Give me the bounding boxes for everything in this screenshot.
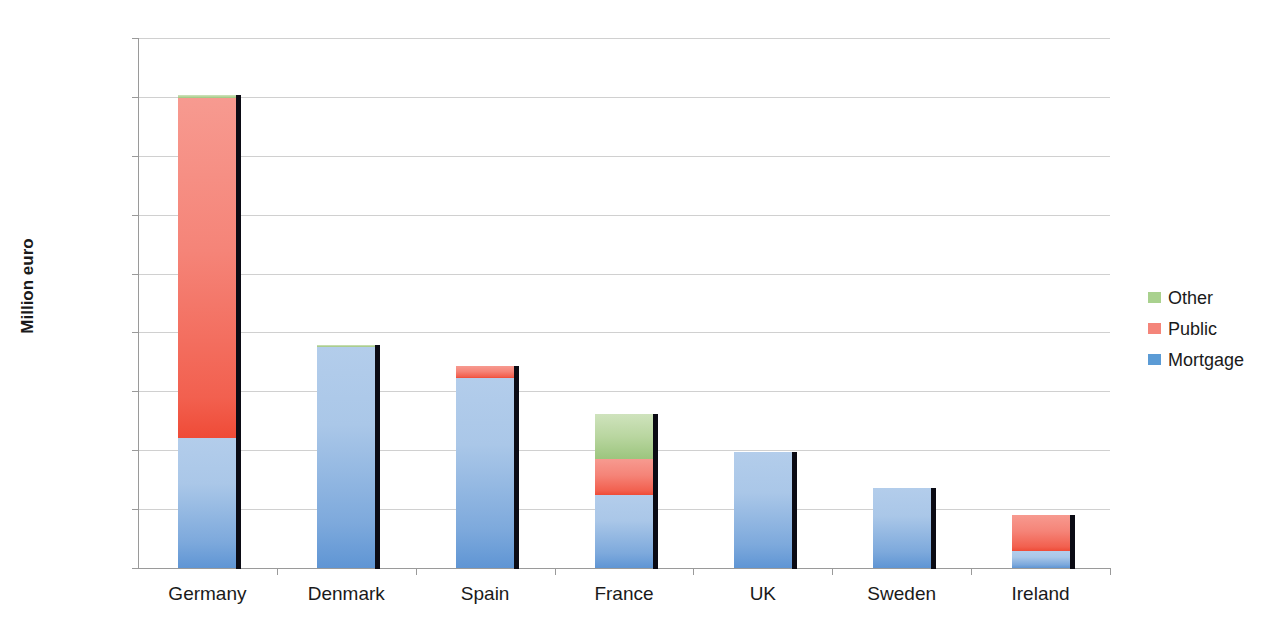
legend-label: Other xyxy=(1168,289,1213,307)
y-tick-mark xyxy=(132,274,139,275)
bar-sweden[interactable] xyxy=(873,488,931,568)
x-tick-mark xyxy=(277,568,278,575)
bar-shadow xyxy=(1070,515,1075,569)
y-tick-mark xyxy=(132,450,139,451)
gridline xyxy=(138,38,1110,39)
bar-spain[interactable] xyxy=(456,366,514,568)
y-tick-mark xyxy=(132,97,139,98)
x-tick-mark xyxy=(693,568,694,575)
bar-segment-public xyxy=(178,98,236,438)
bar-shadow xyxy=(375,345,380,569)
bar-segment-mortgage xyxy=(456,378,514,568)
bar-uk[interactable] xyxy=(734,452,792,568)
y-axis-line xyxy=(138,38,139,568)
legend-swatch-public xyxy=(1148,323,1161,334)
bar-segment-public xyxy=(595,459,653,495)
bar-germany[interactable] xyxy=(178,95,236,568)
legend-item-mortgage[interactable]: Mortgage xyxy=(1148,344,1278,375)
bar-segment-mortgage xyxy=(178,438,236,568)
bar-stack xyxy=(595,414,653,568)
legend-item-public[interactable]: Public xyxy=(1148,313,1278,344)
bar-stack xyxy=(178,95,236,568)
chart-legend: OtherPublicMortgage xyxy=(1148,282,1278,375)
bar-stack xyxy=(317,345,375,568)
gridline xyxy=(138,215,1110,216)
legend-swatch-other xyxy=(1148,292,1161,303)
legend-label: Public xyxy=(1168,320,1217,338)
legend-item-other[interactable]: Other xyxy=(1148,282,1278,313)
bar-segment-mortgage xyxy=(1012,551,1070,568)
bar-segment-public xyxy=(1012,515,1070,551)
bar-stack xyxy=(1012,515,1070,568)
bar-segment-mortgage xyxy=(595,495,653,568)
x-tick-mark xyxy=(555,568,556,575)
x-tick-label-sweden: Sweden xyxy=(822,583,982,605)
bar-denmark[interactable] xyxy=(317,345,375,568)
gridline xyxy=(138,332,1110,333)
bar-shadow xyxy=(792,452,797,569)
x-tick-label-france: France xyxy=(544,583,704,605)
legend-swatch-mortgage xyxy=(1148,354,1161,365)
x-tick-label-denmark: Denmark xyxy=(266,583,426,605)
y-tick-mark xyxy=(132,332,139,333)
bar-stack xyxy=(734,452,792,568)
bar-france[interactable] xyxy=(595,414,653,568)
y-tick-mark xyxy=(132,215,139,216)
bar-chart: Million euro 900000800000700000600000500… xyxy=(0,0,1281,618)
y-tick-mark xyxy=(132,38,139,39)
bar-segment-other xyxy=(595,414,653,459)
x-tick-label-spain: Spain xyxy=(405,583,565,605)
y-axis-title: Million euro xyxy=(18,206,38,366)
bar-shadow xyxy=(514,366,519,569)
gridline xyxy=(138,391,1110,392)
bar-segment-public xyxy=(456,366,514,378)
x-tick-mark xyxy=(1110,568,1111,575)
y-tick-mark xyxy=(132,156,139,157)
bar-stack xyxy=(456,366,514,568)
y-tick-mark xyxy=(132,391,139,392)
legend-label: Mortgage xyxy=(1168,351,1244,369)
x-tick-label-uk: UK xyxy=(683,583,843,605)
gridline xyxy=(138,97,1110,98)
x-tick-mark xyxy=(971,568,972,575)
bar-shadow xyxy=(236,95,241,569)
x-tick-label-ireland: Ireland xyxy=(961,583,1121,605)
gridline xyxy=(138,156,1110,157)
bar-segment-mortgage xyxy=(734,452,792,568)
bar-segment-mortgage xyxy=(317,347,375,568)
x-axis-baseline xyxy=(138,568,1110,569)
x-tick-mark xyxy=(416,568,417,575)
plot-area: 9000008000007000006000005000004000003000… xyxy=(138,38,1110,568)
bar-shadow xyxy=(653,414,658,569)
y-tick-mark xyxy=(132,568,139,569)
x-tick-mark xyxy=(832,568,833,575)
bar-stack xyxy=(873,488,931,568)
gridline xyxy=(138,274,1110,275)
x-tick-label-germany: Germany xyxy=(127,583,287,605)
bar-segment-mortgage xyxy=(873,488,931,568)
bar-shadow xyxy=(931,488,936,569)
y-tick-mark xyxy=(132,509,139,510)
bar-ireland[interactable] xyxy=(1012,515,1070,568)
